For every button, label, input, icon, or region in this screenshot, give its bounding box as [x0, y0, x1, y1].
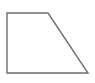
- figure-canvas: [0, 0, 95, 83]
- shape-svg: [0, 0, 95, 83]
- trapezoid-shape: [7, 13, 88, 73]
